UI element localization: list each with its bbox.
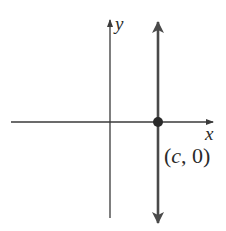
y-axis-label: y — [113, 13, 124, 34]
point-c-0 — [153, 117, 163, 127]
point-label-open: ( — [164, 143, 171, 168]
coordinate-diagram: y x (c, 0) — [0, 0, 226, 231]
point-label: (c, 0) — [164, 143, 210, 168]
x-axis-label: x — [204, 123, 214, 144]
point-label-var: c — [171, 143, 181, 168]
point-label-rest: , 0) — [181, 143, 210, 168]
